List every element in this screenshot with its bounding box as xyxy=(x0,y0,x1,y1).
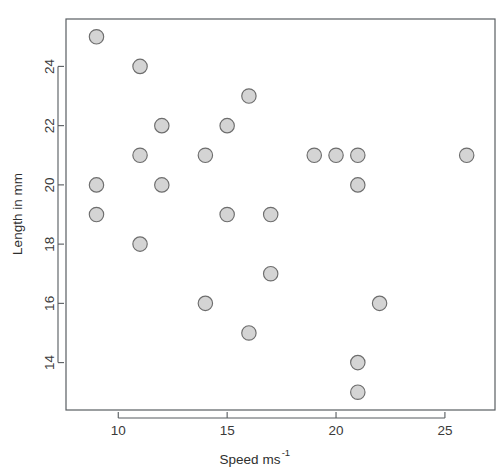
data-point xyxy=(89,178,103,192)
data-point xyxy=(372,296,386,310)
data-point xyxy=(133,59,147,73)
scatter-plot-figure: 141618202224 10152025 Speed ms -1 Length… xyxy=(0,0,504,476)
data-point xyxy=(242,326,256,340)
y-axis-title-text: Length in mm xyxy=(10,173,25,255)
data-point xyxy=(133,237,147,251)
data-point xyxy=(351,148,365,162)
data-point xyxy=(220,118,234,132)
x-axis-title-exponent: -1 xyxy=(282,447,290,458)
y-tick-label: 22 xyxy=(42,118,57,133)
data-point xyxy=(198,148,212,162)
data-point xyxy=(351,178,365,192)
y-tick-label: 14 xyxy=(42,355,57,371)
data-point xyxy=(133,148,147,162)
x-tick-label: 10 xyxy=(111,423,126,438)
plot-canvas: 141618202224 10152025 Speed ms -1 Length… xyxy=(0,0,504,476)
y-tick-label: 20 xyxy=(42,177,57,192)
data-point xyxy=(242,89,256,103)
y-tick-label: 24 xyxy=(42,58,57,74)
data-point xyxy=(89,30,103,44)
x-axis-title-text: Speed ms xyxy=(220,452,281,467)
data-point xyxy=(329,148,343,162)
y-tick-label: 18 xyxy=(42,237,57,252)
data-point xyxy=(198,296,212,310)
figure-background xyxy=(0,0,504,476)
y-tick-label: 16 xyxy=(42,296,57,311)
data-point xyxy=(220,207,234,221)
data-point xyxy=(351,385,365,399)
y-axis-title: Length in mm xyxy=(10,173,25,255)
x-tick-label: 25 xyxy=(437,423,452,438)
x-tick-label: 15 xyxy=(220,423,235,438)
data-point xyxy=(89,207,103,221)
data-point xyxy=(351,355,365,369)
data-point xyxy=(307,148,321,162)
data-point xyxy=(155,178,169,192)
data-point xyxy=(155,118,169,132)
x-tick-label: 20 xyxy=(329,423,344,438)
data-point xyxy=(264,267,278,281)
data-point xyxy=(459,148,473,162)
data-point xyxy=(264,207,278,221)
